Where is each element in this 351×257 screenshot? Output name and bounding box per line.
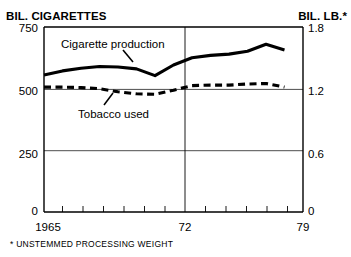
tobacco-label-leader [104,93,113,105]
footnote: * UNSTEMMED PROCESSING WEIGHT [10,239,173,249]
series-tobacco-used [44,84,285,95]
plot-area [0,0,351,257]
x-axis-ticks [63,206,288,212]
series-label-tobacco-used: Tobacco used [78,108,149,120]
cigarette-tobacco-chart: BIL. CIGARETTES BIL. LB.* 750 500 250 0 … [0,0,351,257]
cigarette-label-leader [123,50,133,62]
series-label-cigarette-production: Cigarette production [61,38,165,50]
